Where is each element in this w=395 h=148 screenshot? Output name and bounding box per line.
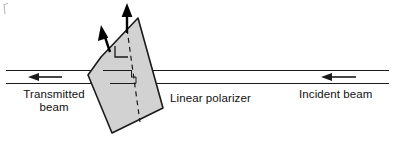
transmitted-beam-label-line1: Transmitted bbox=[23, 88, 84, 100]
diagram-canvas bbox=[0, 0, 395, 148]
polarizer-diagram: Transmittedbeam Incident beam Linear pol… bbox=[0, 0, 395, 148]
linear-polarizer-label: Linear polarizer bbox=[170, 92, 251, 105]
incident-beam-direction-arrow bbox=[321, 73, 356, 81]
incident-beam-label: Incident beam bbox=[299, 88, 373, 101]
incident-arrow-head bbox=[321, 73, 332, 81]
vertical-arrow-head bbox=[122, 3, 133, 17]
scan-artifact-mark bbox=[4, 3, 8, 14]
transmitted-beam-label: Transmittedbeam bbox=[8, 88, 100, 114]
transmitted-beam-direction-arrow bbox=[28, 73, 62, 81]
transmitted-arrow-head bbox=[28, 73, 39, 81]
transmitted-beam-label-line2: beam bbox=[8, 101, 100, 114]
polarization-vector-arrow-icon-tilted bbox=[98, 25, 110, 52]
